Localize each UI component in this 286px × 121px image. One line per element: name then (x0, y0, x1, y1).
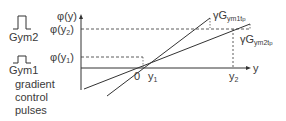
line-gym1-label: γGym1tp (213, 9, 246, 25)
caption-line-1: gradient (15, 78, 55, 90)
x-axis-arrow-icon (246, 66, 251, 70)
pulse-gym1-icon (13, 56, 31, 63)
x-tick-y1: y1 (148, 70, 157, 86)
line-gym2-label: γGym2tp (240, 33, 273, 49)
origin-label: 0 (134, 70, 140, 82)
line-gym2 (84, 24, 250, 89)
x-axis-label: y (253, 62, 259, 74)
pulse-gym2-label: Gym2 (9, 31, 38, 43)
caption-line-3: pulses (15, 104, 47, 116)
x-tick-y2: y2 (229, 70, 238, 86)
caption-line-2: control (15, 91, 48, 103)
pulse-gym1-label: Gym1 (9, 64, 38, 76)
pulse-gym2-icon (13, 16, 31, 29)
y-axis-arrow-icon (79, 14, 83, 19)
y-tick-phi-y2: φ(y2) (50, 23, 74, 39)
y-tick-phi-y1: φ(y1) (50, 51, 74, 67)
y-axis-label: φ(y) (57, 10, 77, 22)
